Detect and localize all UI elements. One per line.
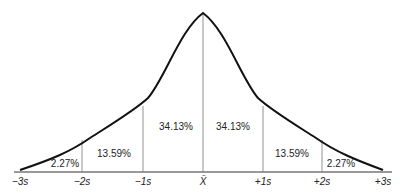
tick-label: +3s xyxy=(375,176,391,187)
area-label: 34.13% xyxy=(216,121,250,132)
area-label: 2.27% xyxy=(327,158,355,169)
tick-label: +1s xyxy=(255,176,271,187)
area-label: 2.27% xyxy=(51,158,79,169)
tick-label: −1s xyxy=(135,176,151,187)
tick-label: −2s xyxy=(74,176,90,187)
area-label: 13.59% xyxy=(275,148,309,159)
area-label: 34.13% xyxy=(159,121,193,132)
tick-label: −3s xyxy=(12,176,28,187)
tick-label: +2s xyxy=(314,176,330,187)
tick-label: X̄ xyxy=(200,176,207,187)
area-label: 13.59% xyxy=(97,148,131,159)
bell-curve xyxy=(20,13,383,170)
